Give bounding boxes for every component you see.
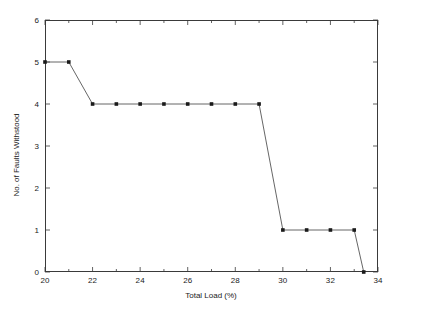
x-axis-label: Total Load (%) bbox=[0, 291, 422, 300]
y-tick-label: 6 bbox=[17, 16, 39, 25]
y-axis-label-wrapper: No. of Faults Withstood bbox=[5, 55, 23, 255]
x-tick-label: 24 bbox=[136, 276, 145, 285]
x-tick-label: 32 bbox=[326, 276, 335, 285]
x-tick-label: 26 bbox=[183, 276, 192, 285]
x-tick-label: 30 bbox=[278, 276, 287, 285]
x-tick-label: 22 bbox=[88, 276, 97, 285]
x-tick-label: 34 bbox=[373, 276, 382, 285]
x-tick-label: 20 bbox=[40, 276, 49, 285]
y-axis-label: No. of Faults Withstood bbox=[12, 113, 21, 196]
chart-figure: 2022242628303234 0123456 Total Load (%) … bbox=[0, 0, 422, 311]
plot-area bbox=[45, 20, 378, 272]
y-tick-label: 0 bbox=[17, 268, 39, 277]
x-tick-label: 28 bbox=[231, 276, 240, 285]
